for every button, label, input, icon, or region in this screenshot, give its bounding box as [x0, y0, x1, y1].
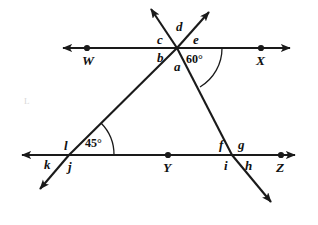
point-Y-dot: [165, 152, 171, 158]
geometry-diagram: W X Y Z c d e b a l k j f g i h 60° 45° …: [0, 0, 318, 225]
transversal-right: [177, 12, 271, 202]
angle-label-b: b: [157, 51, 164, 64]
point-label-Y: Y: [163, 161, 171, 175]
point-label-X: X: [256, 54, 265, 68]
angle-arc-60: [200, 48, 222, 87]
angle-label-l: l: [64, 139, 68, 152]
angle-label-e: e: [193, 33, 199, 46]
angle-label-k: k: [44, 158, 51, 171]
point-label-W: W: [82, 54, 94, 68]
angle-label-a: a: [174, 60, 181, 73]
angle-label-c: c: [157, 33, 163, 46]
angle-measure-45-label: 45°: [85, 137, 102, 149]
angle-label-g: g: [238, 138, 245, 151]
angle-measure-60-label: 60°: [186, 53, 203, 65]
angle-label-f: f: [219, 138, 223, 151]
angle-label-i: i: [224, 159, 228, 172]
angle-arc-45: [101, 123, 114, 155]
point-W-dot: [84, 45, 90, 51]
scan-smudge-artifact: L: [24, 97, 30, 106]
angle-label-j: j: [68, 160, 72, 173]
point-label-Z: Z: [276, 161, 284, 175]
point-Z-dot: [278, 152, 284, 158]
angle-label-d: d: [176, 20, 183, 33]
transversal-left-upper-ray: [151, 9, 177, 48]
point-X-dot: [258, 45, 264, 51]
angle-label-h: h: [245, 159, 252, 172]
